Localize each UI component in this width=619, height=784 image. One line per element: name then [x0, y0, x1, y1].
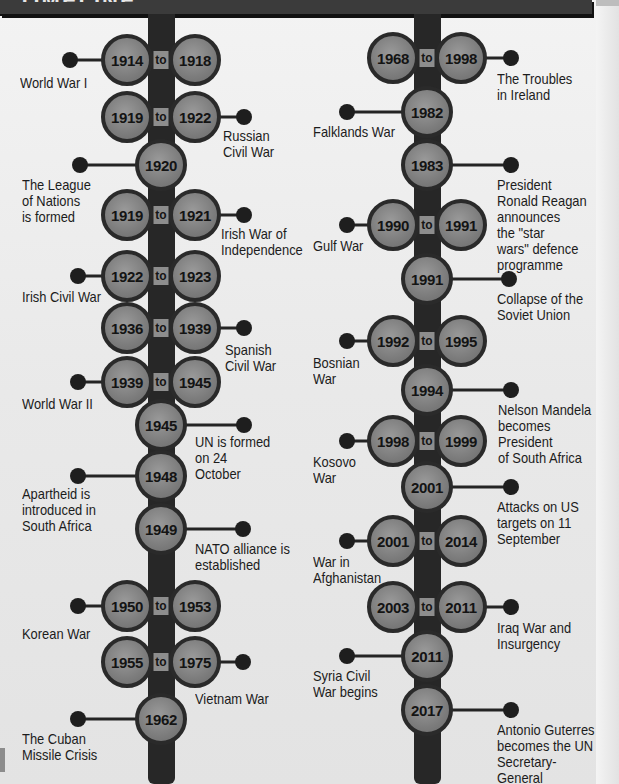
marker-dot-icon	[503, 157, 519, 173]
connector-line	[451, 486, 511, 489]
event-label: Kosovo War	[313, 454, 356, 486]
marker-dot-icon	[235, 654, 251, 670]
marker-dot-icon	[70, 711, 86, 727]
year-badge: 1999	[435, 415, 487, 467]
event-label: Syria Civil War begins	[313, 668, 378, 700]
event-label: Attacks on US targets on 11 September	[497, 499, 579, 547]
year-badge: 1918	[169, 34, 221, 86]
connector-line	[451, 164, 511, 167]
connector-line	[451, 389, 511, 392]
year-badge: 1998	[367, 415, 419, 467]
range-to-label: to	[154, 373, 169, 391]
year-badge: 1920	[135, 139, 187, 191]
marker-dot-icon	[70, 374, 86, 390]
marker-dot-icon	[503, 599, 519, 615]
year-badge: 1998	[435, 32, 487, 84]
year-badge: 1982	[401, 86, 453, 138]
year-badge: 1919	[101, 91, 153, 143]
event-label: Gulf War	[313, 238, 363, 254]
marker-dot-icon	[62, 52, 78, 68]
page-side-tab	[0, 748, 5, 772]
year-badge: 1994	[401, 364, 453, 416]
range-to-label: to	[420, 216, 435, 234]
year-badge: 1991	[401, 253, 453, 305]
marker-dot-icon	[503, 382, 519, 398]
event-label: The Cuban Missile Crisis	[22, 731, 97, 763]
year-badge: 1939	[169, 302, 221, 354]
event-label: War in Afghanistan	[313, 554, 381, 586]
year-badge: 1950	[101, 580, 153, 632]
year-badge: 1962	[135, 693, 187, 745]
year-badge: 1945	[169, 356, 221, 408]
range-to-label: to	[154, 108, 169, 126]
range-to-label: to	[420, 532, 435, 550]
range-to-label: to	[154, 319, 169, 337]
marker-dot-icon	[339, 433, 355, 449]
marker-dot-icon	[503, 50, 519, 66]
event-label: Antonio Guterres becomes the UN Secretar…	[497, 722, 602, 784]
year-badge: 1939	[101, 356, 153, 408]
header-band: TIMELINE	[0, 0, 592, 16]
event-label: Falklands War	[313, 124, 395, 140]
year-badge: 1921	[169, 189, 221, 241]
page-background	[0, 0, 619, 784]
year-badge: 2001	[401, 461, 453, 513]
event-label: Korean War	[22, 626, 90, 642]
range-to-label: to	[154, 51, 169, 69]
event-label: The Troubles in Ireland	[497, 71, 572, 103]
year-badge: 1990	[367, 199, 419, 251]
year-badge: 2017	[401, 684, 453, 736]
event-label: Irish War of Independence	[221, 226, 303, 258]
connector-line	[347, 655, 403, 658]
year-badge: 1922	[169, 91, 221, 143]
year-badge: 1992	[367, 315, 419, 367]
marker-dot-icon	[70, 268, 86, 284]
year-badge: 1949	[135, 503, 187, 555]
event-label: Russian Civil War	[223, 128, 274, 160]
marker-dot-icon	[236, 320, 252, 336]
range-to-label: to	[154, 653, 169, 671]
marker-dot-icon	[503, 479, 519, 495]
year-badge: 1995	[435, 315, 487, 367]
year-badge: 1936	[101, 302, 153, 354]
year-badge: 1919	[101, 189, 153, 241]
event-label: UN is formed on 24 October	[195, 434, 270, 482]
range-to-label: to	[154, 597, 169, 615]
range-to-label: to	[420, 432, 435, 450]
connector-line	[80, 164, 137, 167]
range-to-label: to	[154, 206, 169, 224]
year-badge: 1945	[135, 399, 187, 451]
event-label: Nelson Mandela becomes President of Sout…	[498, 402, 602, 466]
year-badge: 1975	[169, 636, 221, 688]
year-badge: 1955	[101, 636, 153, 688]
event-label: Vietnam War	[195, 691, 269, 707]
marker-dot-icon	[70, 598, 86, 614]
year-badge: 2014	[435, 515, 487, 567]
year-badge: 1923	[169, 250, 221, 302]
year-badge: 1953	[169, 580, 221, 632]
page-edge-shadow	[596, 0, 619, 6]
year-badge: 1991	[435, 199, 487, 251]
range-to-label: to	[420, 49, 435, 67]
year-badge: 1983	[401, 139, 453, 191]
year-badge: 2011	[401, 630, 453, 682]
event-label: World War I	[20, 75, 87, 91]
marker-dot-icon	[339, 333, 355, 349]
marker-dot-icon	[501, 271, 517, 287]
event-label: World War II	[22, 396, 93, 412]
event-label: The League of Nations is formed	[22, 177, 91, 225]
event-label: Irish Civil War	[22, 289, 101, 305]
event-label: President Ronald Reagan announces the "s…	[497, 177, 587, 273]
page-edge-right	[596, 0, 619, 784]
event-label: Spanish Civil War	[225, 342, 276, 374]
marker-dot-icon	[339, 533, 355, 549]
year-badge: 1914	[101, 34, 153, 86]
page-title: TIMELINE	[18, 0, 178, 2]
range-to-label: to	[420, 598, 435, 616]
connector-line	[347, 111, 403, 114]
marker-dot-icon	[339, 648, 355, 664]
marker-dot-icon	[236, 417, 252, 433]
connector-line	[451, 709, 511, 712]
marker-dot-icon	[236, 207, 252, 223]
year-badge: 1968	[367, 32, 419, 84]
